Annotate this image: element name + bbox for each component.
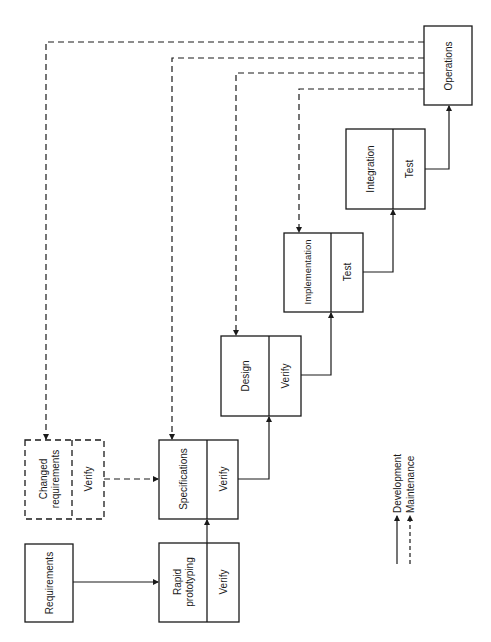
- legend: Development Maintenance: [392, 454, 416, 564]
- changed-requirements-box: Changed requirements Verify: [25, 440, 104, 519]
- specifications-box: Specifications Verify: [159, 440, 238, 519]
- arrow-design-to-implementation: [301, 313, 331, 375]
- rapid-prototyping-label-1: Rapid: [172, 569, 183, 595]
- life-cycle-diagram: Requirements Changed requirements Verify…: [0, 0, 491, 642]
- rapid-prototyping-verify: Verify: [218, 569, 229, 594]
- changed-requirements-label-1: Changed: [38, 459, 49, 500]
- arrow-operations-to-changed-requirements: [46, 42, 424, 439]
- changed-requirements-label-2: requirements: [50, 450, 61, 508]
- implementation-box: Implementation Test: [284, 233, 363, 312]
- legend-maintenance-label: Maintenance: [405, 455, 416, 513]
- operations-label: Operations: [443, 42, 454, 91]
- requirements-label: Requirements: [44, 552, 55, 614]
- specifications-label: Specifications: [178, 448, 189, 510]
- arrow-operations-to-specifications: [172, 58, 424, 439]
- integration-test: Test: [404, 160, 415, 179]
- rapid-prototyping-label-2: prototyping: [184, 557, 195, 606]
- requirements-box: Requirements: [25, 544, 73, 622]
- implementation-label: Implementation: [302, 240, 313, 305]
- design-box: Design Verify: [221, 336, 301, 416]
- operations-box: Operations: [424, 26, 472, 105]
- implementation-test: Test: [342, 263, 353, 282]
- integration-label: Integration: [365, 145, 376, 192]
- arrow-operations-to-design: [236, 73, 424, 335]
- maintenance-arrows: [46, 42, 424, 479]
- specifications-verify: Verify: [218, 466, 229, 491]
- changed-requirements-verify: Verify: [83, 466, 94, 491]
- arrow-integration-to-operations: [425, 106, 449, 169]
- legend-development-label: Development: [392, 454, 403, 513]
- design-label: Design: [240, 360, 251, 391]
- rapid-prototyping-box: Rapid prototyping Verify: [159, 543, 239, 622]
- arrow-implementation-to-integration: [363, 210, 393, 272]
- arrow-specifications-to-design: [238, 417, 269, 479]
- integration-box: Integration Test: [346, 129, 425, 209]
- design-verify: Verify: [280, 363, 291, 388]
